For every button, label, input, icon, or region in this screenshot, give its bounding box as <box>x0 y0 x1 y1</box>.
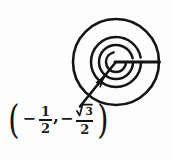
spiral-diagram-figure: ( − 1 2 , − 3 2 <box>0 0 171 160</box>
spiral-diagram-canvas <box>0 0 171 160</box>
